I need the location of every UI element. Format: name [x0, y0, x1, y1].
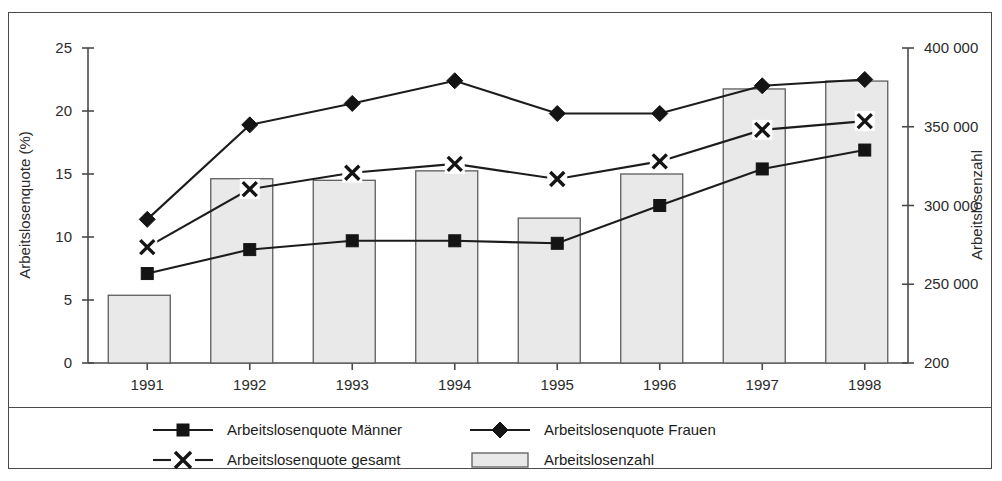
y-tick-label: 10: [55, 228, 72, 245]
legend-item[interactable]: Arbeitslosenzahl: [472, 451, 654, 468]
marker-diamond: [652, 106, 668, 122]
x-tick-label: 1994: [438, 376, 471, 393]
x-tick-label: 1991: [131, 376, 164, 393]
marker-square: [346, 235, 358, 247]
legend-marker-x: [175, 452, 191, 468]
x-axis-ticks: 19911992199319941995199619971998: [131, 363, 882, 393]
legend-marker-diamond: [492, 422, 508, 438]
marker-square: [551, 237, 563, 249]
legend-item[interactable]: Arbeitslosenquote Frauen: [470, 421, 716, 438]
legend-item[interactable]: Arbeitslosenquote gesamt: [153, 451, 401, 468]
marker-diamond: [549, 106, 565, 122]
marker-square: [756, 163, 768, 175]
bar: [416, 171, 478, 363]
legend-marker-bar: [472, 453, 528, 467]
y2-tick-label: 350 000: [924, 118, 978, 135]
y-axis-left-title: Arbeitslosenquote (%): [16, 131, 33, 279]
legend-label: Arbeitslosenquote Männer: [227, 421, 402, 438]
marker-square: [449, 235, 461, 247]
legend-marker-square: [177, 424, 189, 436]
y-axis-right-ticks: 200250 000300 000350 000400 000: [902, 39, 978, 371]
legend-label: Arbeitslosenquote Frauen: [544, 421, 716, 438]
marker-square: [654, 200, 666, 212]
y-tick-label: 25: [55, 39, 72, 56]
chart-legend: Arbeitslosenquote MännerArbeitslosenquot…: [153, 421, 716, 468]
x-tick-label: 1998: [848, 376, 881, 393]
marker-square: [141, 268, 153, 280]
bar: [621, 174, 683, 363]
bar: [108, 295, 170, 363]
y2-tick-label: 250 000: [924, 275, 978, 292]
y2-tick-label: 200: [924, 354, 949, 371]
x-tick-label: 1993: [336, 376, 369, 393]
x-tick-label: 1992: [233, 376, 266, 393]
y-tick-label: 20: [55, 102, 72, 119]
marker-square: [244, 244, 256, 256]
legend-label: Arbeitslosenzahl: [544, 451, 654, 468]
marker-square: [859, 144, 871, 156]
bar: [518, 218, 580, 363]
marker-diamond: [447, 73, 463, 89]
legend-item[interactable]: Arbeitslosenquote Männer: [153, 421, 402, 438]
legend-label: Arbeitslosenquote gesamt: [227, 451, 401, 468]
y-tick-label: 15: [55, 165, 72, 182]
x-tick-label: 1996: [643, 376, 676, 393]
y-tick-label: 5: [64, 291, 72, 308]
x-tick-label: 1995: [541, 376, 574, 393]
chart-page: 0510152025 200250 000300 000350 000400 0…: [0, 0, 1002, 481]
y-tick-label: 0: [64, 354, 72, 371]
y-axis-right-title: Arbeitslosenzahl: [968, 150, 985, 260]
marker-diamond: [344, 95, 360, 111]
bar: [313, 180, 375, 363]
y2-tick-label: 400 000: [924, 39, 978, 56]
x-tick-label: 1997: [746, 376, 779, 393]
chart-canvas: 0510152025 200250 000300 000350 000400 0…: [0, 0, 1002, 481]
